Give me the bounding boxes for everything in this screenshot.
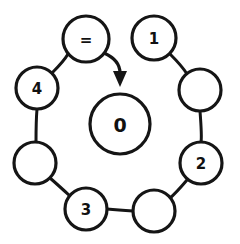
node-eq[interactable]: =	[63, 16, 109, 62]
edge-2-to-blank2	[169, 180, 187, 199]
diagram-canvas: 0 = 1 2 3	[0, 0, 240, 244]
edge-4-to-eq	[52, 54, 68, 73]
node-3[interactable]: 3	[65, 188, 107, 230]
arrow-curve	[104, 53, 120, 73]
ring-linked-structure-diagram: 0 = 1 2 3	[0, 0, 240, 244]
arrow-head-icon	[113, 71, 127, 87]
node-center-0[interactable]: 0	[90, 94, 150, 154]
edge-blank3-to-4	[36, 109, 37, 142]
node-2[interactable]: 2	[180, 142, 222, 184]
edge-blank2-to-3	[107, 209, 133, 211]
node-blank-lower-left[interactable]	[14, 142, 56, 184]
node-4[interactable]: 4	[16, 67, 58, 109]
node-3-label: 3	[81, 201, 91, 219]
node-4-label: 4	[32, 80, 42, 98]
node-center-0-label: 0	[113, 114, 126, 136]
node-blank-upper-right[interactable]	[179, 69, 221, 111]
node-eq-label: =	[80, 31, 93, 49]
node-blank-lower-right-circle[interactable]	[133, 190, 175, 232]
node-blank-lower-left-circle[interactable]	[14, 142, 56, 184]
node-1[interactable]: 1	[132, 16, 176, 60]
node-1-label: 1	[149, 30, 159, 48]
node-blank-lower-right[interactable]	[133, 190, 175, 232]
node-blank-upper-right-circle[interactable]	[179, 69, 221, 111]
edge-blank1-to-2	[200, 111, 201, 142]
edge-3-to-blank3	[50, 178, 70, 196]
node-2-label: 2	[196, 155, 206, 173]
edge-1-to-blank1	[170, 54, 187, 74]
pointer-arrow	[104, 53, 127, 87]
